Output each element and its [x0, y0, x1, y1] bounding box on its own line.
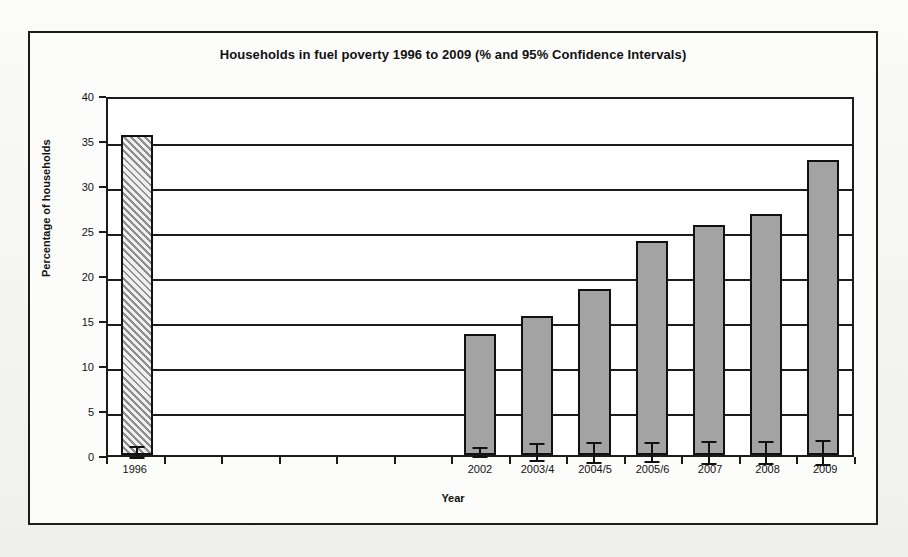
y-axis-tick-label: 25 — [68, 226, 94, 238]
y-axis-tick-mark — [99, 456, 106, 458]
bar[interactable] — [464, 334, 496, 455]
error-bar — [136, 446, 138, 460]
bars-layer — [108, 99, 852, 455]
error-bar — [479, 447, 481, 459]
x-axis-tick-label-empty — [164, 463, 222, 475]
bar-slot — [394, 99, 451, 455]
x-axis-tick-label-empty — [394, 463, 452, 475]
bar-slot — [566, 99, 623, 455]
bar[interactable] — [521, 316, 553, 455]
bar-slot — [337, 99, 394, 455]
bar-slot — [795, 99, 852, 455]
bar-slot — [108, 99, 165, 455]
y-axis-tick-label: 20 — [68, 271, 94, 283]
x-axis-tick-label: 1996 — [106, 463, 164, 475]
error-bar — [593, 442, 595, 464]
x-axis-tick-labels: 199620022003/42004/52005/6200720082009 — [106, 463, 854, 475]
y-axis-tick-mark — [99, 366, 106, 368]
bar[interactable] — [807, 160, 839, 455]
x-axis-tick-label: 2009 — [796, 463, 854, 475]
bar[interactable] — [578, 289, 610, 455]
y-axis-tick-label: 10 — [68, 361, 94, 373]
x-axis-title: Year — [30, 492, 876, 504]
bar-slot — [680, 99, 737, 455]
x-axis-tick-label: 2007 — [681, 463, 739, 475]
y-axis-tick-mark — [99, 276, 106, 278]
plot-area — [106, 97, 854, 457]
y-axis-tick-mark — [99, 186, 106, 188]
bar[interactable] — [693, 225, 725, 455]
bar[interactable] — [750, 214, 782, 455]
chart-figure-frame: Households in fuel poverty 1996 to 2009 … — [28, 31, 878, 525]
y-axis-tick-mark — [99, 141, 106, 143]
x-axis-tick-label: 2008 — [739, 463, 797, 475]
error-bar — [708, 441, 710, 464]
y-axis-tick-mark — [99, 96, 106, 98]
bar-slot — [165, 99, 222, 455]
x-axis-tick-mark — [854, 457, 856, 464]
y-axis-tick-mark — [99, 411, 106, 413]
error-bar — [536, 443, 538, 462]
bar-slot — [623, 99, 680, 455]
y-axis-tick-label: 5 — [68, 406, 94, 418]
bar[interactable] — [636, 241, 668, 455]
chart-title: Households in fuel poverty 1996 to 2009 … — [30, 47, 876, 62]
y-axis-tick-label: 35 — [68, 136, 94, 148]
x-axis-tick-label-empty — [336, 463, 394, 475]
error-bar — [765, 441, 767, 464]
y-axis-tick-label: 30 — [68, 181, 94, 193]
x-axis-tick-label: 2005/6 — [624, 463, 682, 475]
bar[interactable] — [121, 135, 153, 455]
y-axis-title: Percentage of households — [40, 139, 52, 277]
x-axis-tick-label-empty — [221, 463, 279, 475]
bar-slot — [280, 99, 337, 455]
y-axis-tick-label: 15 — [68, 316, 94, 328]
bar-slot — [222, 99, 279, 455]
bar-slot — [509, 99, 566, 455]
error-bar — [651, 442, 653, 463]
y-axis-tick-mark — [99, 231, 106, 233]
y-axis-tick-mark — [99, 321, 106, 323]
error-bar — [822, 440, 824, 465]
y-axis-tick-label: 40 — [68, 91, 94, 103]
y-axis-tick-label: 0 — [68, 451, 94, 463]
x-axis-tick-label: 2002 — [451, 463, 509, 475]
x-axis-tick-label: 2004/5 — [566, 463, 624, 475]
bar-slot — [738, 99, 795, 455]
bar-slot — [451, 99, 508, 455]
x-axis-tick-label-empty — [279, 463, 337, 475]
x-axis-tick-label: 2003/4 — [509, 463, 567, 475]
